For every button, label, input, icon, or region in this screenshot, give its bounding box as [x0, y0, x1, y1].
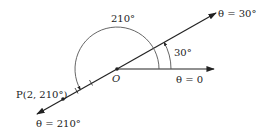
origin-label: O: [112, 73, 120, 84]
polar-diagram: O θ = 30° θ = 0 θ = 210° 210° 30° P(2, 2…: [0, 0, 264, 131]
origin-point: [115, 67, 119, 71]
arc-30: [164, 42, 171, 69]
arc-label-30: 30°: [174, 47, 192, 58]
point-p-label: P(2, 210°): [16, 89, 67, 100]
ray-label-theta-210: θ = 210°: [36, 118, 81, 129]
arc-label-210: 210°: [111, 13, 135, 24]
ray-label-theta-0: θ = 0: [176, 74, 203, 85]
ray-label-theta-30: θ = 30°: [218, 8, 256, 19]
